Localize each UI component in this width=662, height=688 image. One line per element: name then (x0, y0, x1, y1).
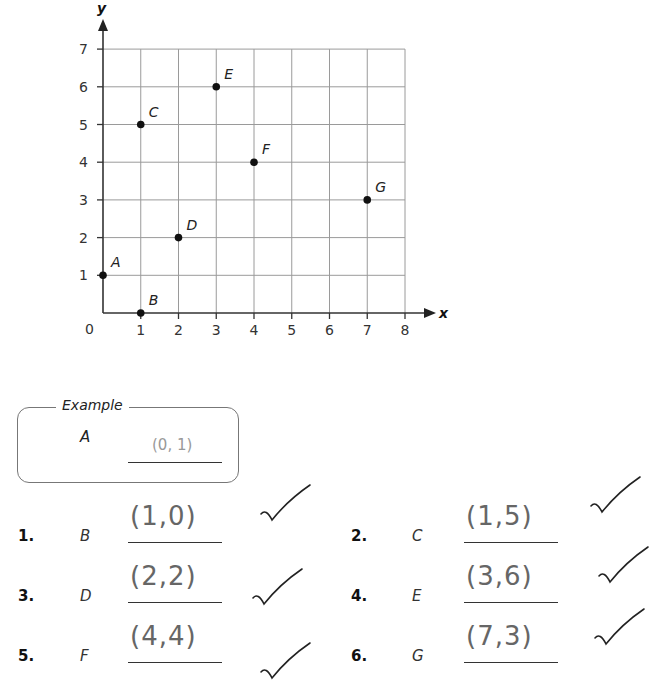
x-tick-label: 4 (250, 322, 259, 338)
point-label-d: D (187, 217, 198, 233)
plotted-points: ABCDEFG (99, 66, 386, 317)
example-answer: (0, 1) (152, 436, 192, 454)
x-tick-label: 5 (287, 322, 296, 338)
question-point-label: D (80, 587, 92, 605)
y-tick-label: 7 (79, 41, 88, 57)
x-tick-label: 8 (401, 322, 410, 338)
question-number: 4. (351, 587, 367, 605)
y-tick-label: 1 (79, 267, 88, 283)
point-a (99, 272, 107, 280)
axes (103, 28, 426, 313)
x-axis-arrow-icon (424, 308, 436, 318)
x-tick-label: 7 (363, 322, 372, 338)
point-label-e: E (224, 66, 233, 82)
point-label-b: B (149, 292, 159, 308)
y-axis-label: y (97, 0, 107, 16)
question-point-label: C (412, 527, 422, 545)
question-number: 5. (18, 647, 34, 665)
x-tick-label: 1 (136, 322, 145, 338)
y-tick-label: 2 (79, 230, 88, 246)
origin-label: 0 (85, 321, 94, 337)
answer-line (128, 542, 222, 543)
answer-line (128, 602, 222, 603)
checkmark-icon (592, 606, 652, 656)
answer-line (464, 602, 558, 603)
example-answer-line (128, 462, 222, 463)
point-label-f: F (262, 141, 271, 157)
handwritten-answer[interactable]: (2,2) (130, 561, 197, 591)
grid-lines (103, 49, 405, 313)
x-tick-label: 6 (325, 322, 334, 338)
answer-line (464, 542, 558, 543)
y-tick-label: 3 (79, 192, 88, 208)
point-c (137, 121, 145, 129)
checkmark-icon (258, 640, 318, 688)
point-b (137, 309, 145, 317)
point-label-c: C (149, 104, 159, 120)
point-d (175, 234, 183, 242)
x-tick-label: 3 (212, 322, 221, 338)
question-point-label: F (80, 647, 89, 665)
answer-line (464, 662, 558, 663)
example-box (17, 407, 239, 483)
question-number: 2. (351, 527, 367, 545)
point-e (212, 83, 220, 91)
handwritten-answer[interactable]: (1,5) (466, 501, 533, 531)
handwritten-answer[interactable]: (1,0) (130, 501, 197, 531)
question-number: 6. (351, 647, 367, 665)
question-point-label: E (412, 587, 421, 605)
x-tick-label: 2 (174, 322, 183, 338)
y-tick-label: 4 (79, 154, 88, 170)
coordinate-grid: x y 0 123456781234567 ABCDEFG (0, 0, 662, 345)
checkmark-icon (588, 474, 648, 524)
tick-labels: 123456781234567 (79, 41, 409, 338)
point-g (363, 196, 371, 204)
checkmark-icon (596, 544, 656, 594)
x-axis-label: x (438, 305, 449, 321)
question-point-label: B (80, 527, 90, 545)
answer-line (128, 662, 222, 663)
checkmark-icon (258, 482, 318, 532)
checkmark-icon (250, 566, 310, 616)
point-label-a: A (110, 254, 121, 270)
y-axis-arrow-icon (98, 19, 108, 31)
handwritten-answer[interactable]: (3,6) (466, 561, 533, 591)
y-tick-label: 5 (79, 117, 88, 133)
question-point-label: G (412, 647, 424, 665)
point-f (250, 158, 258, 166)
question-number: 1. (18, 527, 34, 545)
y-tick-label: 6 (79, 79, 88, 95)
point-label-g: G (375, 179, 386, 195)
handwritten-answer[interactable]: (7,3) (466, 621, 533, 651)
question-number: 3. (18, 587, 34, 605)
example-point-label: A (80, 428, 90, 446)
example-title: Example (56, 397, 129, 413)
handwritten-answer[interactable]: (4,4) (130, 621, 197, 651)
